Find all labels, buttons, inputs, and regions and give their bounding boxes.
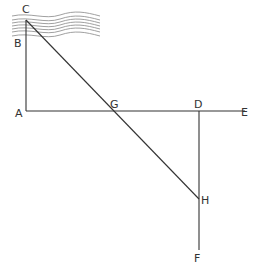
point-labels: CBAGDEHF <box>14 3 248 265</box>
construction-lines <box>26 20 245 250</box>
point-label-G: G <box>110 98 119 111</box>
point-label-B: B <box>14 37 22 50</box>
diagram-canvas: CBAGDEHF <box>0 0 259 271</box>
point-label-H: H <box>201 194 209 207</box>
point-label-F: F <box>194 252 200 265</box>
point-label-C: C <box>22 3 30 16</box>
point-label-E: E <box>241 106 248 119</box>
point-label-D: D <box>194 98 202 111</box>
point-label-A: A <box>15 107 23 120</box>
